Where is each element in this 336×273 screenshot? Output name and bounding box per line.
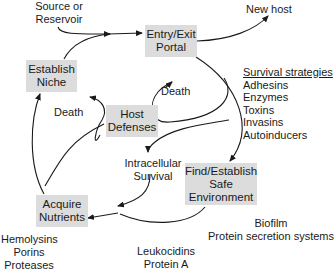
acquire-nutrients-box: Acquire Nutrients xyxy=(36,195,88,227)
biofilm-line1: Biofilm xyxy=(208,217,334,230)
acquire-nutrients-line1: Acquire xyxy=(43,198,82,211)
hemolysins-line3: Proteases xyxy=(1,259,57,272)
pathogen-lifecycle-diagram: Entry/Exit Portal Establish Niche Host D… xyxy=(0,0,336,273)
death-right-label: Death xyxy=(161,85,190,98)
find-safe-line1: Find/Establish xyxy=(185,165,257,178)
acquire-nutrients-line2: Nutrients xyxy=(39,211,85,224)
biofilm-label: Biofilm Protein secretion systems xyxy=(208,217,334,243)
hemolysins-line1: Hemolysins xyxy=(1,233,57,246)
strategy-item: Invasins xyxy=(243,116,333,129)
host-defenses-box: Host Defenses xyxy=(106,105,158,137)
find-safe-environment-box: Find/Establish Safe Environment xyxy=(185,163,257,205)
strategy-item: Autoinducers xyxy=(243,129,333,142)
hemolysins-label: Hemolysins Porins Proteases xyxy=(1,233,57,272)
leukocidins-label: Leukocidins Protein A xyxy=(136,245,196,271)
establish-niche-box: Establish Niche xyxy=(26,60,77,92)
hemolysins-line2: Porins xyxy=(1,246,57,259)
death-left-label: Death xyxy=(54,106,83,119)
source-line2: Reservoir xyxy=(33,13,85,26)
survival-strategies-list: Survival strategies Adhesins Enzymes Tox… xyxy=(243,66,333,142)
establish-niche-line2: Niche xyxy=(37,76,66,89)
entry-exit-line1: Entry/Exit xyxy=(146,28,195,41)
leukocidins-line2: Protein A xyxy=(136,258,196,271)
find-safe-line2: Safe xyxy=(209,178,233,191)
entry-exit-portal-box: Entry/Exit Portal xyxy=(145,25,197,57)
strategy-item: Adhesins xyxy=(243,79,333,92)
intracellular-survival-label: Intracellular Survival xyxy=(123,157,183,183)
intracellular-line2: Survival xyxy=(123,170,183,183)
host-defenses-line2: Defenses xyxy=(108,121,157,134)
leukocidins-line1: Leukocidins xyxy=(136,245,196,258)
survival-strategies-heading: Survival strategies xyxy=(243,66,333,79)
source-reservoir-label: Source or Reservoir xyxy=(33,0,85,26)
strategy-item: Enzymes xyxy=(243,91,333,104)
source-line1: Source or xyxy=(33,0,85,13)
biofilm-line2: Protein secretion systems xyxy=(208,230,334,243)
establish-niche-line1: Establish xyxy=(28,63,75,76)
entry-exit-line2: Portal xyxy=(156,41,186,54)
host-defenses-line1: Host xyxy=(120,108,144,121)
find-safe-line3: Environment xyxy=(189,191,254,204)
intracellular-line1: Intracellular xyxy=(123,157,183,170)
strategy-item: Toxins xyxy=(243,104,333,117)
new-host-label: New host xyxy=(246,3,292,16)
